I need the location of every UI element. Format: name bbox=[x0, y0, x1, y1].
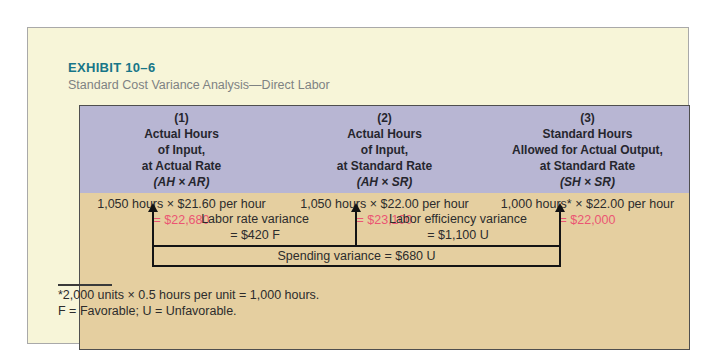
column-2-line: at Standard Rate bbox=[283, 158, 486, 174]
column-header-3: (3) Standard Hours Allowed for Actual Ou… bbox=[486, 106, 689, 193]
labor-efficiency-variance-value: = $1,100 U bbox=[358, 227, 558, 243]
exhibit-subtitle: Standard Cost Variance Analysis—Direct L… bbox=[68, 78, 330, 92]
column-1-line: of Input, bbox=[80, 142, 283, 158]
footnote-divider bbox=[58, 284, 112, 286]
labor-rate-variance-value: = $420 F bbox=[155, 227, 355, 243]
labor-efficiency-variance-title: Labor efficiency variance bbox=[358, 211, 558, 227]
computation-1: 1,050 hours × $21.60 per hour bbox=[80, 196, 283, 212]
labor-rate-variance-title: Labor rate variance bbox=[155, 211, 355, 227]
exhibit-figure: EXHIBIT 10–6 Standard Cost Variance Anal… bbox=[0, 0, 716, 361]
spending-variance-text: Spending variance = $680 U bbox=[152, 248, 561, 264]
column-2-number: (2) bbox=[283, 110, 486, 126]
column-2-line: of Input, bbox=[283, 142, 486, 158]
column-header-2: (2) Actual Hours of Input, at Standard R… bbox=[283, 106, 486, 193]
column-1-line: Actual Hours bbox=[80, 126, 283, 142]
footnote-legend: F = Favorable; U = Unfavorable. bbox=[58, 304, 237, 318]
bracket-line-upper bbox=[152, 245, 561, 247]
bracket-line-lower bbox=[152, 265, 561, 267]
column-1-number: (1) bbox=[80, 110, 283, 126]
column-3-line: Standard Hours bbox=[486, 126, 689, 142]
arrow-shaft-middle bbox=[355, 211, 357, 247]
exhibit-label: EXHIBIT 10–6 bbox=[68, 60, 155, 75]
column-3-formula: (SH × SR) bbox=[486, 174, 689, 190]
column-2-formula: (AH × SR) bbox=[283, 174, 486, 190]
computation-3: 1,000 hours* × $22.00 per hour bbox=[486, 196, 689, 212]
column-header-band: (1) Actual Hours of Input, at Actual Rat… bbox=[80, 106, 689, 193]
column-3-number: (3) bbox=[486, 110, 689, 126]
footnote-calculation: *2,000 units × 0.5 hours per unit = 1,00… bbox=[58, 288, 319, 302]
column-1-line: at Actual Rate bbox=[80, 158, 283, 174]
column-3-line: at Standard Rate bbox=[486, 158, 689, 174]
column-2-line: Actual Hours bbox=[283, 126, 486, 142]
spending-variance-label: Spending variance = $680 U bbox=[152, 248, 561, 264]
computation-2: 1,050 hours × $22.00 per hour bbox=[283, 196, 486, 212]
column-1-formula: (AH × AR) bbox=[80, 174, 283, 190]
column-header-1: (1) Actual Hours of Input, at Actual Rat… bbox=[80, 106, 283, 193]
column-3-line: Allowed for Actual Output, bbox=[486, 142, 689, 158]
labor-efficiency-variance-label: Labor efficiency variance = $1,100 U bbox=[358, 211, 558, 243]
labor-rate-variance-label: Labor rate variance = $420 F bbox=[155, 211, 355, 243]
